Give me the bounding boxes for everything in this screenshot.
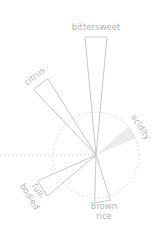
radial-bar-chart: bittersweetaciditybrownricefull-bodiedci…	[0, 0, 162, 246]
label-bittersweet: bittersweet	[72, 22, 121, 32]
bar-brown-rice	[95, 155, 111, 203]
labels-layer: bittersweetaciditybrownricefull-bodiedci…	[18, 22, 153, 221]
bar-acidity	[96, 126, 136, 155]
bar-citrus	[34, 79, 97, 156]
label-brown-rice: brownrice	[91, 201, 117, 221]
bar-full-bodied	[38, 155, 96, 196]
bar-bittersweet	[85, 37, 107, 155]
